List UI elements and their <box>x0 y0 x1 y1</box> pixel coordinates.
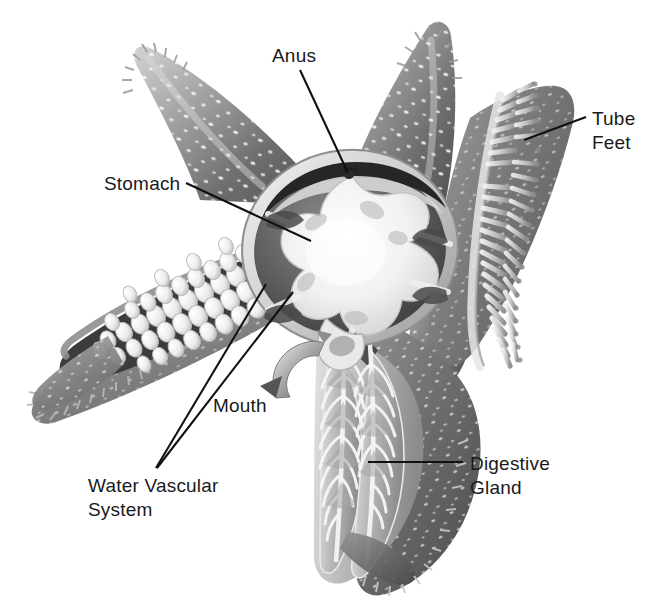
sea-star-diagram: Anus Tube Feet Stomach Mouth Water Vascu… <box>0 0 660 601</box>
sea-star-anatomy-figure: Anus Tube Feet Stomach Mouth Water Vascu… <box>0 0 660 601</box>
label-digestive-gland-line2: Gland <box>470 477 522 498</box>
label-water-vascular-line1: Water Vascular <box>88 475 219 496</box>
label-mouth: Mouth <box>213 395 267 416</box>
label-stomach: Stomach <box>104 173 180 194</box>
label-digestive-gland-line1: Digestive <box>470 453 550 474</box>
label-tube-feet-line2: Feet <box>592 132 631 153</box>
label-water-vascular-line2: System <box>88 499 153 520</box>
label-tube-feet-line1: Tube <box>592 108 635 129</box>
label-anus: Anus <box>272 45 316 66</box>
